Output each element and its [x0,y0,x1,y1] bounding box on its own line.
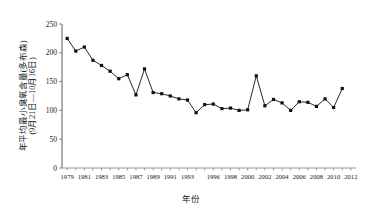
x-tick-label: 1993 [181,173,195,180]
data-point-marker [341,87,344,90]
data-point-marker [220,107,223,110]
data-point-marker [280,101,283,104]
axes [62,24,356,168]
data-point-marker [315,105,318,108]
data-point-marker [169,94,172,97]
x-tick-label: 2000 [241,173,255,180]
data-point-marker [255,74,258,77]
data-point-marker [272,98,275,101]
data-point-marker [152,91,155,94]
x-tick-label: 1991 [164,173,177,180]
y-tick-label: 100 [46,106,58,115]
x-axis-ticks: 1979198119831985198719891991199319961998… [61,168,358,180]
x-tick-label: 1983 [95,173,109,180]
data-series [66,37,344,115]
data-point-marker [195,111,198,114]
x-tick-label: 1998 [224,173,238,180]
x-tick-label: 2004 [275,173,289,180]
x-tick-label: 1989 [147,173,161,180]
series-markers [66,37,344,115]
data-point-marker [143,67,146,70]
x-tick-label: 2002 [258,173,271,180]
plot-area: 050100150200250 197919811983198519871989… [0,0,381,219]
y-axis-ticks: 050100150200250 [46,20,62,173]
data-point-marker [109,70,112,73]
x-tick-label: 1985 [112,173,126,180]
data-point-marker [289,109,292,112]
data-point-marker [83,45,86,48]
x-tick-label: 1987 [129,173,143,180]
x-tick-label: 2012 [344,173,357,180]
data-point-marker [160,92,163,95]
x-tick-label: 1979 [61,173,75,180]
x-tick-label: 2010 [327,173,341,180]
data-point-marker [246,108,249,111]
y-tick-label: 150 [46,77,58,86]
x-tick-label: 2008 [310,173,324,180]
data-point-marker [66,37,69,40]
data-point-marker [237,109,240,112]
data-point-marker [306,101,309,104]
x-tick-label: 1996 [207,173,221,180]
x-axis-title: 年份 [0,192,381,204]
data-point-marker [91,59,94,62]
data-point-marker [126,73,129,76]
data-point-marker [212,102,215,105]
y-tick-label: 0 [53,164,57,173]
data-point-marker [298,100,301,103]
data-point-marker [332,106,335,109]
ozone-line-chart: 年平均最小臭氧含量(多布森) (9月21日—10月16日) 0501001502… [0,0,381,219]
data-point-marker [134,93,137,96]
series-line [67,38,342,112]
y-tick-label: 200 [46,48,58,57]
data-point-marker [203,103,206,106]
data-point-marker [117,77,120,80]
data-point-marker [263,104,266,107]
data-point-marker [229,106,232,109]
x-tick-label: 1981 [78,173,91,180]
data-point-marker [74,49,77,52]
y-tick-label: 50 [50,135,58,144]
x-tick-label: 2006 [293,173,307,180]
data-point-marker [323,97,326,100]
data-point-marker [177,97,180,100]
data-point-marker [100,64,103,67]
y-tick-label: 250 [46,20,58,29]
data-point-marker [186,98,189,101]
